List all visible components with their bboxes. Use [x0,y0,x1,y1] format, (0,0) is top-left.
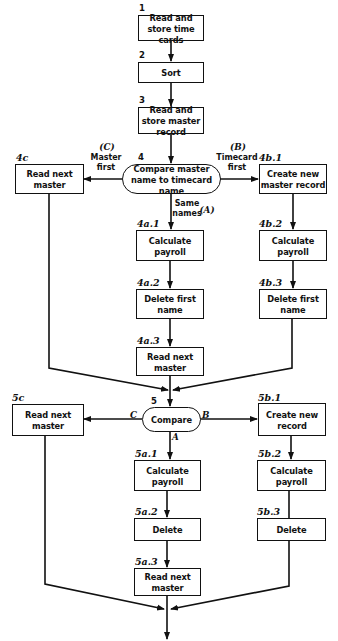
process-5b2-calculate-payroll: Calculate payroll [257,460,326,491]
edge-label-a-letter: (A) [198,205,216,215]
process-5b1-create-new-record: Create new record [258,403,326,436]
edge-label-c: C [130,410,137,420]
edge-label-b: B [202,410,209,420]
process-read-store-master-record: Read and store master record [138,107,204,134]
step-number: 4b.2 [259,219,282,229]
flowchart-connectors [0,0,338,641]
step-number: 5a.3 [135,557,158,567]
process-4b1-create-new-master-record: Create new master record [259,164,327,194]
step-number: 4a.2 [137,278,160,288]
process-read-store-time-cards: Read and store time cards [138,15,204,41]
edge-label-master-first: Master first [88,152,124,172]
process-4b2-calculate-payroll: Calculate payroll [259,230,327,261]
step-number: 5a.1 [135,449,158,459]
step-number: 5b.2 [258,449,281,459]
edge-label-b-letter: (B) [228,142,248,152]
step-number: 4 [138,152,144,162]
decision-compare: Compare [142,407,201,432]
process-4a2-delete-first-name: Delete first name [136,289,204,319]
edge-label-a: A [172,432,179,442]
step-number: 4b.1 [259,153,282,163]
process-5c-read-next-master: Read next master [12,404,84,436]
step-number: 4b.3 [259,278,282,288]
process-4a1-calculate-payroll: Calculate payroll [136,230,204,261]
decision-compare-names: Compare master name to timecard name [122,164,221,194]
process-5a3-read-next-master: Read next master [134,568,201,596]
process-sort: Sort [138,62,204,83]
step-number: 2 [139,50,145,60]
step-number: 5c [12,393,24,403]
step-number: 4a.3 [137,336,160,346]
process-4c-read-next-master: Read next master [15,164,84,194]
step-number: 5b.3 [257,507,280,517]
step-number: 4a.1 [137,219,160,229]
process-5a1-calculate-payroll: Calculate payroll [134,460,201,491]
process-4a3-read-next-master: Read next master [136,347,204,376]
process-5a2-delete: Delete [134,518,201,541]
step-number: 5a.2 [135,507,158,517]
process-4b3-delete-first-name: Delete first name [259,289,327,319]
step-number: 4c [16,153,28,163]
step-number: 5b.1 [258,393,281,403]
process-5b3-delete: Delete [257,518,326,541]
step-number: 5 [151,396,157,406]
edge-label-c-letter: (C) [97,142,117,152]
edge-label-timecard-first: Timecard first [215,152,259,172]
